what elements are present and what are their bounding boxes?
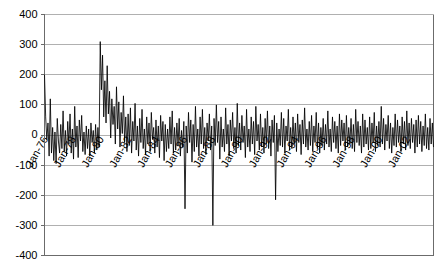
chart-container: 4003002001000-100-200-300-400 Jan-76Jan-… bbox=[0, 0, 448, 278]
y-axis-tick-label: -200 bbox=[15, 189, 37, 201]
y-axis-tick-label: 200 bbox=[19, 68, 37, 80]
y-axis-labels-group: 4003002001000-100-200-300-400 bbox=[15, 8, 37, 261]
y-axis-tick-label: 400 bbox=[19, 8, 37, 20]
data-series-line bbox=[45, 42, 434, 226]
y-axis-tick-label: 300 bbox=[19, 38, 37, 50]
y-axis-tick-label: 100 bbox=[19, 98, 37, 110]
y-axis-tick-label: -400 bbox=[15, 249, 37, 261]
y-axis-tick-label: -300 bbox=[15, 219, 37, 231]
line-chart: 4003002001000-100-200-300-400 Jan-76Jan-… bbox=[0, 0, 448, 278]
